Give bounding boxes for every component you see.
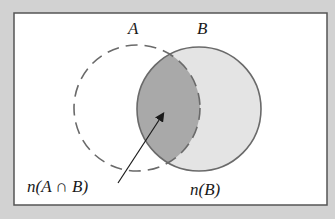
intersection-count-label: n(A ∩ B) xyxy=(27,178,88,195)
set-a-label: A xyxy=(128,20,138,37)
set-b-label: B xyxy=(197,20,207,37)
set-b-count-label: n(B) xyxy=(190,181,220,198)
